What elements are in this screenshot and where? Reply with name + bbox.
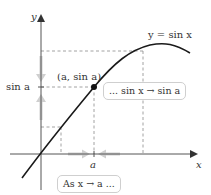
- dashed-guides: [41, 51, 143, 154]
- point-a-sin-a: [91, 84, 97, 90]
- x-axis-label: x: [196, 160, 202, 170]
- callout-x-approaches-a: As x → a ...: [57, 175, 121, 193]
- sine-continuity-diagram: y x y = sin x (a, sin a) sin a a ... sin…: [0, 0, 211, 195]
- callout-sin-x-approaches: ... sin x → sin a: [103, 82, 186, 100]
- point-label: (a, sin a): [57, 72, 101, 82]
- y-axis-label: y: [31, 12, 37, 22]
- x-tick-label: a: [90, 160, 96, 170]
- curve-label: y = sin x: [148, 30, 192, 40]
- y-tick-label: sin a: [6, 82, 30, 92]
